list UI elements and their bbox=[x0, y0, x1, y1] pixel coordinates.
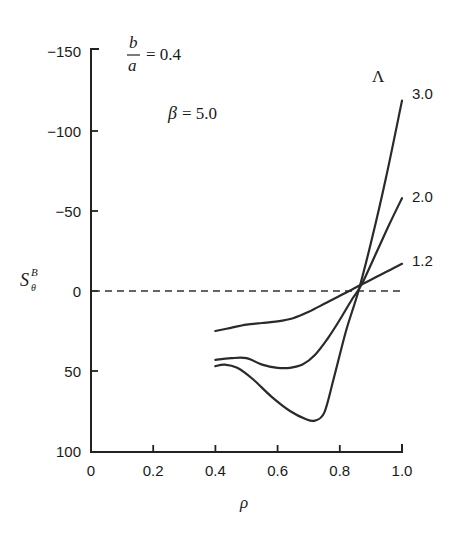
y-axis-label-superscript: B bbox=[31, 266, 38, 278]
series-group bbox=[215, 101, 402, 421]
x-tick-label: 1.0 bbox=[392, 462, 413, 479]
y-tick-label: 100 bbox=[56, 443, 81, 460]
x-tick-label: 0.6 bbox=[267, 462, 288, 479]
x-tick-label: 0.4 bbox=[205, 462, 226, 479]
x-tick-label: 0 bbox=[87, 462, 95, 479]
beta-value: = 5.0 bbox=[182, 104, 217, 123]
y-tick-label: −150 bbox=[47, 43, 81, 60]
x-tick-label: 0.8 bbox=[329, 462, 350, 479]
series-labels: 3.02.01.2 bbox=[412, 85, 433, 269]
annotation-b-over-a: b a = 0.4 bbox=[127, 33, 182, 75]
y-tick-label: −100 bbox=[47, 123, 81, 140]
x-tick-label: 0.2 bbox=[143, 462, 164, 479]
series-label-2-0: 2.0 bbox=[412, 188, 433, 205]
y-tick-label: −50 bbox=[56, 203, 81, 220]
y-axis-label-subscript: θ bbox=[31, 282, 36, 293]
legend-title-lambda: Λ bbox=[372, 67, 385, 86]
fraction-denominator: a bbox=[128, 56, 137, 75]
x-axis-label: ρ bbox=[239, 493, 248, 512]
axes bbox=[90, 48, 403, 452]
ratio-value: = 0.4 bbox=[146, 45, 182, 64]
x-ticks: 00.20.40.60.81.0 bbox=[87, 445, 413, 479]
series-line-lambda-1-2 bbox=[215, 264, 402, 331]
annotation-beta: β = 5.0 bbox=[167, 103, 217, 123]
y-axis-label-S: S bbox=[20, 270, 29, 290]
y-axis-label: S B θ bbox=[20, 266, 38, 293]
fraction-numerator: b bbox=[129, 33, 138, 52]
series-line-lambda-2-0 bbox=[215, 198, 402, 368]
series-label-3-0: 3.0 bbox=[412, 85, 433, 102]
chart: 00.20.40.60.81.0 −150−100−50050100 3.02.… bbox=[0, 0, 459, 534]
y-tick-label: 50 bbox=[64, 363, 81, 380]
series-line-lambda-3-0 bbox=[215, 101, 402, 421]
y-tick-label: 0 bbox=[73, 283, 81, 300]
series-label-1-2: 1.2 bbox=[412, 252, 433, 269]
beta-symbol: β bbox=[167, 103, 177, 123]
